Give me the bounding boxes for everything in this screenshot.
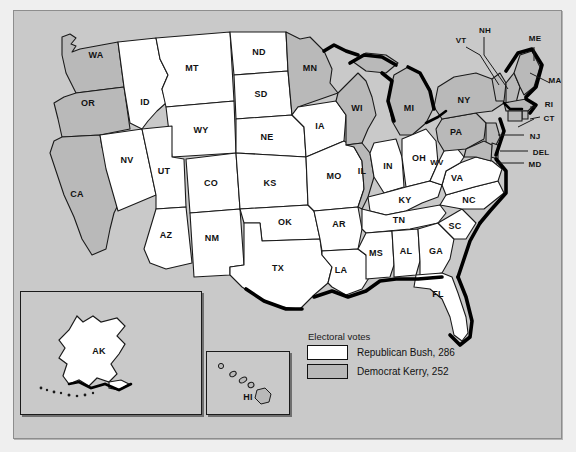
- label-SC: SC: [449, 221, 462, 231]
- label-AL: AL: [400, 246, 413, 256]
- label-GA: GA: [429, 246, 443, 256]
- legend-label-republican: Republican Bush, 286: [357, 347, 455, 358]
- label-IL: IL: [358, 166, 367, 176]
- label-AK: AK: [92, 346, 106, 356]
- legend-entry-democrat: Democrat Kerry, 252: [307, 364, 487, 379]
- legend-title: Electoral votes: [308, 331, 487, 342]
- label-MI: MI: [404, 103, 414, 113]
- label-LA: LA: [335, 265, 348, 275]
- label-CT: CT: [543, 114, 554, 123]
- label-WI: WI: [351, 103, 362, 113]
- legend-label-democrat: Democrat Kerry, 252: [357, 366, 449, 377]
- label-NJ: NJ: [530, 132, 541, 141]
- state-RI[interactable]: [522, 111, 528, 119]
- label-MT: MT: [185, 63, 199, 73]
- label-MN: MN: [303, 63, 317, 73]
- map-legend: Electoral votes Republican Bush, 286 Dem…: [307, 331, 487, 383]
- label-WV: WV: [430, 158, 444, 167]
- label-KY: KY: [399, 195, 412, 205]
- label-OK: OK: [278, 217, 292, 227]
- map-page: .st{stroke:#1a1a1a;stroke-width:1.1;stro…: [0, 0, 576, 452]
- label-ND: ND: [252, 47, 266, 57]
- label-KS: KS: [264, 178, 277, 188]
- label-RI: RI: [545, 100, 553, 109]
- label-NC: NC: [462, 195, 476, 205]
- label-FL: FL: [432, 289, 444, 299]
- label-MA: MA: [549, 76, 561, 85]
- label-NH: NH: [479, 26, 491, 35]
- label-SD: SD: [255, 89, 268, 99]
- label-OR: OR: [81, 98, 95, 108]
- label-WY: WY: [194, 125, 209, 135]
- state-AR[interactable]: [314, 207, 362, 251]
- label-VA: VA: [451, 173, 464, 183]
- label-TX: TX: [272, 263, 284, 273]
- label-TN: TN: [393, 215, 405, 225]
- state-WA[interactable]: [62, 34, 124, 93]
- legend-swatch-democrat: [307, 364, 348, 379]
- label-CO: CO: [204, 178, 218, 188]
- map-frame: .st{stroke:#1a1a1a;stroke-width:1.1;stro…: [13, 10, 562, 439]
- state-OR[interactable]: [54, 87, 130, 137]
- label-MO: MO: [327, 171, 342, 181]
- label-VT: VT: [456, 36, 467, 45]
- label-DEL: DEL: [533, 148, 550, 157]
- label-WA: WA: [89, 50, 104, 60]
- label-MD: MD: [529, 160, 542, 169]
- label-AZ: AZ: [160, 230, 173, 240]
- label-NV: NV: [121, 155, 134, 165]
- label-PA: PA: [450, 127, 463, 137]
- label-NE: NE: [261, 132, 274, 142]
- legend-entry-republican: Republican Bush, 286: [307, 345, 487, 360]
- label-IN: IN: [383, 161, 392, 171]
- label-IA: IA: [315, 121, 325, 131]
- label-ME: ME: [529, 34, 542, 43]
- legend-swatch-republican: [307, 345, 348, 360]
- label-AR: AR: [332, 219, 346, 229]
- state-CT[interactable]: [508, 111, 522, 121]
- label-CA: CA: [70, 189, 84, 199]
- label-HI: HI: [243, 392, 252, 402]
- hawaii-inset[interactable]: HI: [206, 351, 290, 415]
- label-ID: ID: [140, 97, 150, 107]
- label-MS: MS: [369, 248, 383, 258]
- label-UT: UT: [158, 166, 171, 176]
- label-NY: NY: [458, 95, 471, 105]
- label-NM: NM: [205, 233, 219, 243]
- alaska-inset[interactable]: AK: [20, 291, 202, 415]
- label-OH: OH: [412, 153, 426, 163]
